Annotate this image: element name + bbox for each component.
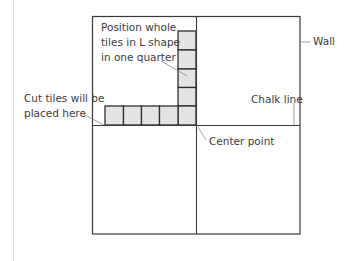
position-tiles-label-line2: tiles in L shape: [101, 35, 180, 50]
wall-label: Wall: [313, 34, 335, 49]
tile: [105, 106, 124, 125]
cut-tiles-label-line1: Cut tiles will be: [24, 91, 104, 106]
tile: [178, 88, 196, 107]
vertical-tile-column: [178, 31, 196, 125]
center-point-leader: [198, 127, 206, 140]
cut-tiles-label: Cut tiles will be placed here: [24, 91, 104, 121]
tile: [178, 50, 196, 69]
chalk-line-label: Chalk line: [251, 92, 303, 107]
cut-tiles-label-line2: placed here: [24, 106, 104, 121]
horizontal-tile-row: [105, 106, 178, 125]
position-tiles-label: Position whole tiles in L shape in one q…: [101, 20, 180, 65]
tile: [178, 106, 196, 125]
center-point-label: Center point: [209, 134, 274, 149]
tile: [142, 106, 160, 125]
tile: [124, 106, 142, 125]
tile: [178, 31, 196, 50]
tile: [178, 69, 196, 88]
position-tiles-label-line1: Position whole: [101, 20, 180, 35]
position-tiles-label-line3: in one quarter: [101, 50, 180, 65]
tile: [160, 106, 179, 125]
